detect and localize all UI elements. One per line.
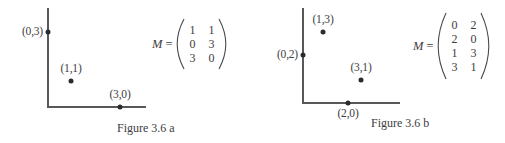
equals-sign: =	[426, 39, 433, 54]
matrix-cell: 3	[470, 46, 476, 60]
right-paren-icon	[480, 12, 490, 80]
matrix-cell: 1	[208, 23, 214, 37]
matrix-cell: 0	[208, 51, 214, 65]
left-paren-icon	[437, 12, 447, 80]
data-point-label: (3,1)	[350, 62, 371, 74]
matrix-cell: 2	[470, 18, 476, 32]
equals-sign: =	[165, 37, 172, 52]
right-paren-icon	[218, 18, 227, 70]
matrix-cell: 0	[189, 37, 195, 51]
matrix-cell: 3	[189, 51, 195, 65]
matrix-body-b: 0 2 2 0 1 3 3 1	[447, 18, 480, 74]
figure-caption-a: Figure 3.6 a	[117, 122, 175, 134]
data-point	[321, 30, 326, 35]
x-axis-b	[302, 102, 400, 104]
matrix-cell: 0	[451, 18, 457, 32]
data-point	[346, 101, 351, 106]
figure-caption-b: Figure 3.6 b	[371, 117, 429, 129]
matrix-cell: 2	[451, 32, 457, 46]
data-point	[359, 78, 364, 83]
data-point-label: (1,1)	[60, 63, 81, 75]
left-paren-icon	[176, 18, 185, 70]
x-axis-a	[47, 106, 146, 108]
data-point	[46, 30, 51, 35]
data-point-label: (0,2)	[277, 49, 298, 61]
y-axis-a	[47, 8, 49, 108]
matrix-cell: 1	[451, 46, 457, 60]
matrix-cell: 3	[451, 60, 457, 74]
figure-3-6-a: (0,3) (1,1) (3,0) M = 1 1 0 3 3 0 Fig	[0, 0, 253, 143]
matrix-symbol: M	[413, 39, 423, 54]
matrix-body-a: 1 1 0 3 3 0	[185, 23, 218, 65]
data-point-label: (1,3)	[312, 14, 333, 26]
data-point-label: (2,0)	[337, 108, 358, 120]
data-point	[69, 79, 74, 84]
matrix-equation-a: M = 1 1 0 3 3 0	[152, 18, 227, 70]
matrix-cell: 0	[470, 32, 476, 46]
matrix-equation-b: M = 0 2 2 0 1 3 3 1	[413, 12, 490, 80]
matrix-symbol: M	[152, 37, 162, 52]
figure-3-6-b: (1,3) (0,2) (3,1) (2,0) M = 0 2 2 0 1 3 …	[253, 0, 505, 143]
data-point-label: (3,0)	[109, 89, 130, 101]
data-point-label: (0,3)	[22, 26, 43, 38]
matrix-cell: 1	[470, 60, 476, 74]
data-point	[118, 105, 123, 110]
data-point	[301, 53, 306, 58]
matrix-cell: 1	[189, 23, 195, 37]
matrix-cell: 3	[208, 37, 214, 51]
